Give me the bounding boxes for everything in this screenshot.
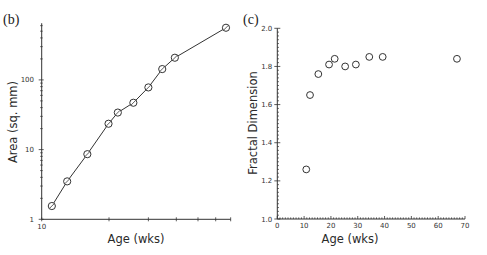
data-point-marker: [352, 61, 359, 68]
data-point-marker: [342, 63, 349, 70]
y-axis-title-c: Fractal Dimension: [246, 71, 260, 174]
y-tick-label-1: 1: [30, 216, 34, 224]
x-tick-label: 10: [300, 222, 309, 230]
data-point-marker: [326, 61, 333, 68]
x-tick-label: 40: [380, 222, 389, 230]
data-point-marker: [379, 54, 386, 61]
x-axis-title-b: Age (wks): [108, 232, 165, 246]
fractal-chart-tick-labels: 0102030405060701.01.21.41.61.82.0: [261, 25, 469, 230]
area-chart-axes: [42, 23, 231, 219]
x-tick-label: 0: [275, 222, 279, 230]
x-tick-label: 30: [353, 222, 362, 230]
y-axis-title-b: Area (sq. mm): [6, 81, 20, 163]
fractal-series: [303, 54, 460, 173]
area-vs-age-chart: (b) 10 1 10 100 Age (wks) Area (sq. mm): [3, 12, 231, 246]
y-tick-label: 2.0: [261, 25, 272, 33]
area-series: [48, 24, 229, 209]
y-tick-label-10: 10: [25, 146, 34, 154]
x-tick-label: 60: [434, 222, 443, 230]
x-tick-label-10: 10: [37, 223, 46, 231]
x-axis-title-c: Age (wks): [322, 232, 379, 246]
panel-label-b: (b): [3, 12, 20, 28]
data-point-marker: [303, 166, 310, 173]
data-point-marker: [366, 54, 373, 61]
fractal-dimension-chart: (c) 0102030405060701.01.21.41.61.82.0 Ag…: [243, 12, 469, 246]
x-tick-label: 70: [461, 222, 470, 230]
y-tick-label: 1.2: [261, 177, 272, 185]
data-point-marker: [331, 55, 338, 62]
figure: (b) 10 1 10 100 Age (wks) Area (sq. mm) …: [0, 0, 487, 255]
x-tick-label: 20: [326, 222, 335, 230]
x-tick-label: 50: [407, 222, 416, 230]
area-line: [52, 28, 226, 206]
y-tick-label: 1.4: [261, 139, 273, 147]
y-tick-label: 1.8: [261, 63, 272, 71]
panel-label-c: (c): [243, 12, 259, 28]
y-tick-label: 1.6: [261, 101, 273, 109]
y-tick-label-100: 100: [21, 76, 34, 84]
data-point-marker: [454, 55, 461, 62]
area-chart-ticks: [39, 26, 231, 222]
data-point-marker: [307, 92, 314, 99]
y-tick-label: 1.0: [261, 216, 272, 224]
data-point-marker: [315, 71, 322, 78]
